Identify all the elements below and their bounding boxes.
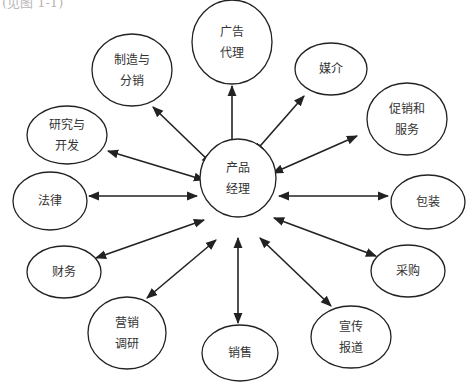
edge-manufacturing-distribution-to-center (153, 107, 212, 164)
node-purchasing: 采购 (371, 245, 445, 297)
node-label: 促销和 (389, 102, 425, 116)
edge-purchasing-to-center (274, 218, 376, 256)
node-label: 报道 (339, 340, 363, 355)
node-label: 宣传 (339, 319, 363, 334)
node-label: 服务 (395, 122, 419, 137)
node-sales: 销售 (202, 325, 278, 381)
node-publicity: 宣传报道 (311, 306, 391, 368)
node-product-manager: 产品经理 (200, 139, 276, 217)
edge-rnd-to-center (108, 151, 204, 180)
edge-finance-to-center (96, 220, 204, 258)
node-label: 研究与 (49, 117, 85, 132)
node-media: 媒介 (295, 43, 367, 95)
node-label: 制造与 (114, 53, 150, 67)
node-ellipse (92, 34, 172, 106)
node-rnd: 研究与开发 (27, 106, 107, 164)
node-legal: 法律 (13, 172, 87, 230)
node-label: 法律 (38, 194, 62, 208)
node-ellipse (192, 0, 272, 84)
node-ellipse (200, 139, 276, 217)
node-label: 代理 (220, 46, 244, 60)
edge-media-to-center (254, 96, 304, 153)
node-finance: 财务 (27, 246, 101, 298)
edge-marketing-research-to-center (147, 240, 216, 298)
node-label: 开发 (55, 138, 79, 153)
node-ellipse (311, 306, 391, 368)
node-manufacturing-distribution: 制造与分销 (92, 34, 172, 106)
node-ellipse (27, 106, 107, 164)
node-ellipse (88, 297, 166, 369)
node-marketing-research: 营销调研 (88, 297, 166, 369)
node-label: 包装 (416, 195, 440, 209)
node-ellipse (367, 83, 447, 155)
node-label: 采购 (396, 263, 420, 278)
node-label: 财务 (52, 264, 76, 279)
edge-promotion-service-to-center (273, 136, 357, 173)
node-label: 调研 (115, 337, 139, 351)
node-label: 销售 (228, 345, 252, 360)
edge-publicity-to-center (260, 238, 331, 306)
node-packaging: 包装 (391, 175, 465, 229)
node-label: 分销 (120, 74, 144, 88)
node-label: 广告 (220, 25, 244, 39)
node-ad-agency: 广告代理 (192, 0, 272, 84)
node-label: 营销 (115, 316, 139, 330)
node-label: 经理 (226, 182, 250, 196)
product-manager-diagram: 制造与分销广告代理媒介促销和服务包装采购宣传报道销售营销调研财务法律研究与开发产… (0, 0, 475, 389)
node-label: 媒介 (319, 62, 343, 76)
node-promotion-service: 促销和服务 (367, 83, 447, 155)
node-label: 产品 (226, 161, 250, 175)
